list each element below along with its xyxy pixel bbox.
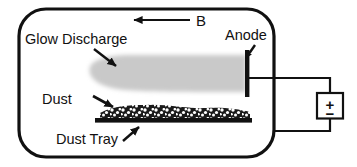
dust-tray-label: Dust Tray bbox=[56, 131, 119, 147]
dust-label: Dust bbox=[42, 91, 72, 107]
dc-power-supply: + − bbox=[317, 93, 343, 122]
glow-discharge-fill bbox=[90, 55, 246, 92]
dust-tray-bar bbox=[95, 118, 252, 123]
dusty-plasma-chamber-diagram: + − B Glow Discharge Anode Dust Dust Tra… bbox=[0, 0, 357, 167]
power-supply-minus-label: − bbox=[326, 105, 335, 122]
glow-discharge-label: Glow Discharge bbox=[25, 31, 127, 47]
magnetic-field-label: B bbox=[196, 12, 206, 29]
glow-discharge-region bbox=[90, 55, 246, 92]
return-lead-wire bbox=[274, 118, 330, 131]
anode-label: Anode bbox=[225, 27, 267, 43]
